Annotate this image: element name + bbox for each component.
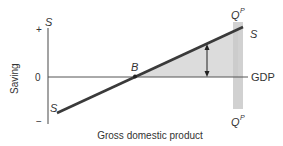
point-b-label: B — [131, 61, 138, 73]
potential-output-band — [233, 22, 243, 109]
axis-top-s-label: S — [45, 16, 53, 28]
qp-top-p: P — [240, 7, 245, 14]
x-axis-label: Gross domestic product — [97, 130, 203, 141]
y-axis-label: Saving — [9, 63, 20, 94]
tick-zero: 0 — [35, 72, 41, 83]
tick-minus: − — [36, 116, 42, 127]
break-even-point — [133, 75, 137, 79]
qp-top-q: Q — [231, 9, 240, 21]
saving-gdp-diagram: S + 0 − Saving S S B GDP Q P Q P Gross d… — [0, 0, 283, 146]
potential-output-top-label: Q P — [231, 7, 245, 21]
qp-bottom-q: Q — [231, 116, 240, 128]
qp-bottom-p: P — [240, 114, 245, 121]
gdp-label: GDP — [251, 71, 275, 83]
potential-output-bottom-label: Q P — [231, 114, 245, 128]
curve-label-top: S — [250, 28, 258, 40]
curve-label-bottom: S — [50, 102, 58, 114]
tick-plus: + — [36, 24, 42, 35]
